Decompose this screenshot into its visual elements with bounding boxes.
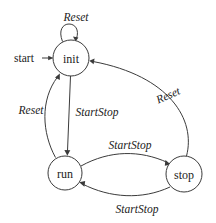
transition-init-run-arrowhead-icon (64, 150, 70, 156)
state-node-stop-label: stop (174, 168, 194, 182)
transition-stop-run-label: StartStop (116, 203, 159, 216)
transition-run-init (45, 74, 60, 158)
transition-run-stop-path (81, 154, 168, 166)
state-diagram-canvas: start Reset StartStop Reset StartStop (0, 0, 216, 223)
transition-run-init-label: Reset (18, 104, 45, 116)
transition-run-stop-label: StartStop (109, 139, 152, 152)
transition-init-run (64, 76, 70, 156)
transition-run-stop (81, 154, 171, 166)
state-machine-diagram: start Reset StartStop Reset StartStop (0, 0, 216, 223)
state-node-init[interactable]: init (53, 40, 89, 76)
entry-arrow-group (42, 56, 54, 60)
transition-stop-init-arrowhead-icon (89, 59, 94, 65)
transition-stop-run-arrowhead-icon (79, 181, 85, 187)
transition-init-run-path (68, 76, 71, 151)
transition-stop-run-path (83, 184, 171, 196)
state-node-stop[interactable]: stop (166, 156, 202, 192)
transition-run-init-path (45, 77, 58, 158)
transition-init-self (61, 24, 79, 42)
transition-init-run-label: StartStop (76, 106, 119, 119)
entry-label: start (14, 52, 35, 64)
transition-stop-run (79, 181, 170, 196)
state-node-init-label: init (63, 52, 80, 66)
state-node-run[interactable]: run (48, 156, 82, 190)
transition-init-self-label: Reset (63, 11, 90, 23)
state-node-run-label: run (57, 167, 73, 181)
